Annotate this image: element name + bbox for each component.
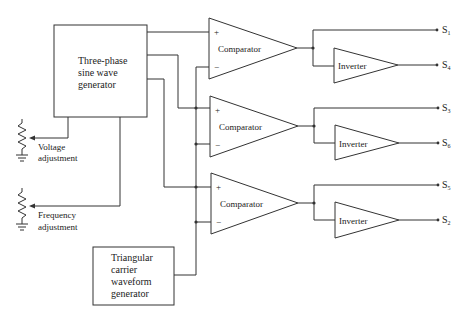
output-s6: S6 (442, 137, 451, 149)
carrier-label-1: Triangular (111, 252, 154, 263)
comparator-label: Comparator (220, 199, 263, 209)
output-s2: S2 (442, 214, 451, 226)
minus-sign: − (214, 62, 219, 72)
inverter-label: Inverter (339, 216, 367, 226)
inverter-label: Inverter (339, 139, 367, 149)
frequency-label-1: Frequency (38, 210, 76, 220)
voltage-label-1: Voltage (38, 142, 65, 152)
comparator-label: Comparator (219, 122, 262, 132)
output-s3: S3 (442, 102, 451, 114)
carrier-label-4: generator (111, 288, 149, 299)
voltage-potentiometer[interactable]: Voltage adjustment (16, 117, 78, 163)
plus-sign: + (215, 105, 220, 115)
inverter-label: Inverter (338, 61, 366, 71)
generator-label-3: generator (78, 79, 116, 90)
sine-wires (147, 32, 211, 187)
output-s4: S4 (442, 59, 451, 71)
comparator-stage-3: + − Comparator Inverter S5 S2 (211, 173, 451, 238)
pwm-inverter-control-diagram: Three-phase sine wave generator Triangul… (0, 0, 467, 322)
comparator-label: Comparator (218, 44, 261, 54)
comparator-stage-1: + − Comparator Inverter S1 S4 (209, 18, 451, 83)
generator-label-2: sine wave (78, 67, 118, 78)
output-s1: S1 (442, 24, 451, 36)
carrier-wires (174, 67, 211, 275)
minus-sign: − (215, 140, 220, 150)
diagram-svg: Three-phase sine wave generator Triangul… (0, 0, 467, 322)
plus-sign: + (214, 27, 219, 37)
plus-sign: + (216, 182, 221, 192)
output-s5: S5 (442, 179, 451, 191)
three-phase-generator: Three-phase sine wave generator (54, 25, 147, 117)
carrier-label-2: carrier (111, 264, 138, 275)
voltage-label-2: adjustment (38, 153, 78, 163)
comparator-stage-2: + − Comparator Inverter S3 S6 (210, 96, 451, 160)
minus-sign: − (216, 217, 221, 227)
generator-label-1: Three-phase (78, 55, 128, 66)
triangular-carrier-generator: Triangular carrier waveform generator (93, 247, 174, 305)
carrier-label-3: waveform (111, 276, 152, 287)
frequency-label-2: adjustment (38, 222, 78, 232)
